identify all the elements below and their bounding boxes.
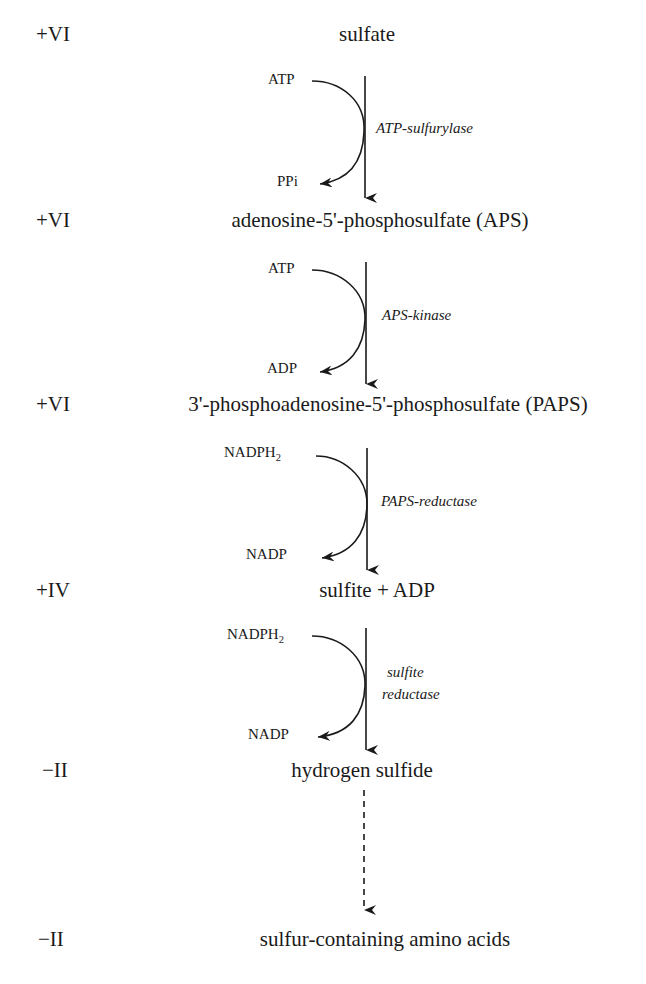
reaction-arrow-1 <box>312 76 365 198</box>
coproduct-nadp-1: NADP <box>246 546 287 563</box>
compound-aps: adenosine-5'-phosphosulfate (APS) <box>231 208 528 233</box>
oxidation-state-6: −II <box>38 927 64 952</box>
enzyme-atp-sulfurylase: ATP-sulfurylase <box>376 120 473 137</box>
enzyme-aps-kinase: APS-kinase <box>382 307 451 324</box>
coproduct-adp: ADP <box>267 360 297 377</box>
compound-paps: 3'-phosphoadenosine-5'-phosphosulfate (P… <box>188 392 587 417</box>
coproduct-ppi: PPi <box>277 173 298 190</box>
reaction-arrow-4 <box>312 628 366 750</box>
reaction-arrow-3 <box>316 448 367 570</box>
cosubstrate-nadph2-2: NADPH2 <box>227 626 284 645</box>
enzyme-sulfite-reductase-line2: reductase <box>382 686 440 703</box>
oxidation-state-2: +VI <box>36 208 70 233</box>
compound-hydrogen-sulfide: hydrogen sulfide <box>291 758 433 783</box>
compound-sulfite-adp: sulfite + ADP <box>319 578 435 603</box>
coproduct-nadp-2: NADP <box>248 726 289 743</box>
enzyme-sulfite-reductase-line1: sulfite <box>387 664 424 681</box>
pathway-arrows <box>0 0 646 984</box>
compound-amino-acids: sulfur-containing amino acids <box>260 927 510 952</box>
oxidation-state-1: +VI <box>36 22 70 47</box>
cosubstrate-nadph2-1: NADPH2 <box>224 444 281 463</box>
cosubstrate-atp-2: ATP <box>268 260 295 277</box>
oxidation-state-5: −II <box>42 758 68 783</box>
oxidation-state-3: +VI <box>36 392 70 417</box>
reaction-arrow-2 <box>312 262 366 384</box>
cosubstrate-atp-1: ATP <box>268 71 295 88</box>
oxidation-state-4: +IV <box>36 578 70 603</box>
compound-sulfate: sulfate <box>339 22 395 47</box>
enzyme-paps-reductase: PAPS-reductase <box>381 493 477 510</box>
